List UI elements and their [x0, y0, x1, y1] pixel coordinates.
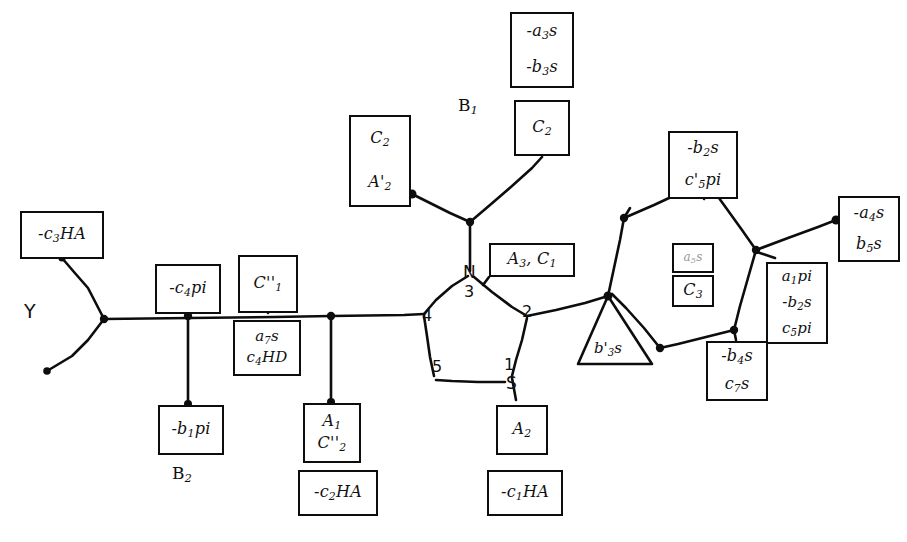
box-b4s-label: -b4s: [721, 346, 753, 368]
box-b4s-c7s[interactable]: -b4s c7s: [706, 341, 768, 401]
box-a2-label: A2: [513, 419, 532, 441]
ring-position-5: 5: [432, 357, 442, 376]
atom-nitrogen: N: [463, 262, 476, 282]
ring-position-1: 1: [504, 355, 514, 374]
wire-a3c1-stub: [483, 277, 489, 285]
wire-junction-to-c2top: [470, 157, 542, 222]
wire-hex-to-a1pi: [757, 252, 775, 258]
box-b5s-label: b5s: [856, 234, 882, 256]
ring-bond-1-5: [436, 380, 505, 382]
box-c3ha-label: -c3HA: [38, 224, 86, 246]
wire-main-spine: [104, 314, 424, 319]
y-marker-label: Y: [24, 300, 36, 322]
box-b1pi[interactable]: -b1pi: [158, 405, 224, 455]
ring-bond-2-1: [512, 318, 527, 376]
box-c3-inner-label: C3: [683, 280, 703, 302]
label-b1-group: B1: [458, 95, 478, 117]
box-b1pi-label: -b1pi: [172, 419, 211, 441]
box-c2ha[interactable]: -c2HA: [298, 470, 378, 516]
box-a2[interactable]: A2: [496, 405, 548, 455]
box-c2-label: C2: [370, 128, 390, 150]
box-c2-top[interactable]: C2: [514, 100, 570, 156]
box-faint-a5s[interactable]: a5s: [672, 243, 714, 273]
box-c5pi-label: c'5pi: [685, 170, 722, 192]
box-c3-inner[interactable]: C3: [672, 275, 714, 307]
box-c4pi-label: -c4pi: [169, 278, 207, 300]
box-c2-ap2[interactable]: C2 A'2: [349, 115, 411, 207]
box-b2s-alt-label: -b2s: [782, 293, 812, 314]
box-a4s-label: -a4s: [854, 203, 885, 225]
box-c1ha-label: -c1HA: [501, 482, 549, 504]
box-c2-top-label: C2: [532, 117, 552, 139]
wire-junction-to-c2a2: [412, 194, 470, 222]
box-a3s-b3s[interactable]: -a3s -b3s: [510, 12, 574, 88]
box-a3s-label: -a3s: [527, 21, 558, 43]
box-a3-c1-label: A3, C1: [507, 249, 556, 271]
hex-bond-4: [734, 250, 756, 330]
box-a1pi-label: a1pi: [782, 267, 813, 288]
box-c5pi-alt-label: c5pi: [782, 319, 812, 340]
box-a4s-b5s[interactable]: -a4s b5s: [838, 196, 900, 262]
box-a7s-label: a7s: [255, 327, 279, 348]
box-b3s-label: -b3s: [526, 57, 558, 79]
ring-position-2: 2: [522, 302, 532, 321]
box-c4hd-label: c4HD: [247, 348, 288, 369]
box-a7s-c4hd[interactable]: a7s c4HD: [233, 320, 301, 376]
wire-ring-to-hexagon: [527, 296, 608, 316]
box-a1-label: A1: [323, 411, 342, 433]
box-a1pi-b2s-c5pi[interactable]: a1pi -b2s c5pi: [766, 262, 828, 344]
box-c3ha[interactable]: -c3HA: [20, 211, 104, 259]
box-b2s-c5pi[interactable]: -b2s c'5pi: [668, 131, 738, 199]
wire-c3ha-to-fork: [62, 258, 104, 319]
box-c7s-label: c7s: [725, 374, 750, 396]
wire-hex-to-a4s: [756, 220, 836, 250]
box-cpp1-label: C''1: [254, 273, 283, 295]
triangle-b3s-label: b'3s: [594, 339, 622, 358]
box-c1ha[interactable]: -c1HA: [487, 470, 563, 516]
wire-hex-vertex-stub: [624, 208, 630, 218]
box-c2ha-label: -c2HA: [314, 482, 362, 504]
box-cpp2-label: C''2: [318, 433, 347, 455]
box-a1-cpp2[interactable]: A1 C''2: [303, 403, 361, 463]
wire-hex-to-b4s: [734, 330, 736, 340]
ring-bond-3-2: [474, 277, 527, 316]
ring-position-4: 4: [422, 306, 432, 325]
label-b2-group: B2: [172, 463, 192, 485]
box-cpp1[interactable]: C''1: [238, 255, 298, 313]
atom-sulfur: S: [506, 373, 517, 393]
diagram-canvas: -c3HA -c4pi C''1 a7s c4HD -b1pi A1 C''2 …: [0, 0, 907, 542]
wire-fork-lower-branch: [47, 319, 104, 371]
box-ap2-label: A'2: [368, 172, 391, 194]
hex-bond-1: [608, 218, 624, 296]
box-faint-a5s-label: a5s: [683, 250, 702, 265]
box-c4pi[interactable]: -c4pi: [155, 264, 221, 314]
box-b2s-label: -b2s: [687, 138, 719, 160]
ring-position-3: 3: [464, 282, 474, 301]
box-a3-c1[interactable]: A3, C1: [489, 243, 575, 277]
